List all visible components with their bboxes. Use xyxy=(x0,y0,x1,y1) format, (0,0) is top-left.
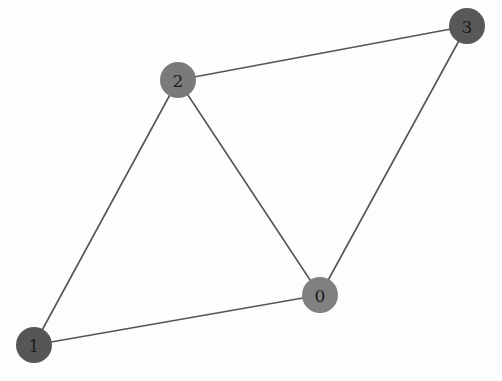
graph-node-circle-2[interactable] xyxy=(160,62,196,98)
graph-node-2[interactable]: 2 xyxy=(160,62,196,98)
graph-node-circle-0[interactable] xyxy=(302,277,338,313)
graph-edge-0-3 xyxy=(320,26,467,295)
graph-node-1[interactable]: 1 xyxy=(16,327,52,363)
graph-canvas: 0123 xyxy=(0,0,502,381)
graph-node-3[interactable]: 3 xyxy=(449,8,485,44)
graph-edge-2-0 xyxy=(178,80,320,295)
edge-layer xyxy=(34,26,467,345)
graph-node-circle-3[interactable] xyxy=(449,8,485,44)
graph-edge-2-3 xyxy=(178,26,467,80)
graph-node-0[interactable]: 0 xyxy=(302,277,338,313)
graph-edge-1-2 xyxy=(34,80,178,345)
graph-node-circle-1[interactable] xyxy=(16,327,52,363)
graph-edge-0-1 xyxy=(34,295,320,345)
graph-svg: 0123 xyxy=(0,0,502,381)
node-layer: 0123 xyxy=(16,8,485,363)
